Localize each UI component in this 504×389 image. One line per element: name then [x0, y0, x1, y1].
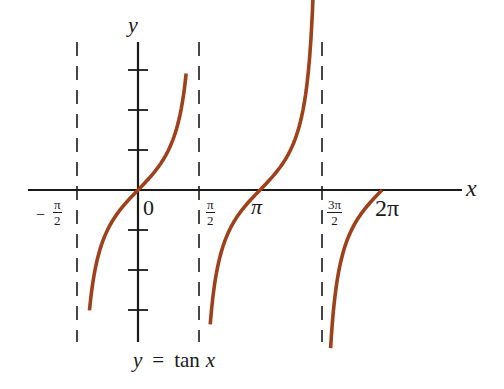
x-axis-label: x — [466, 176, 477, 200]
tick-label-half-pi: π2 — [206, 198, 215, 227]
tick-label-three-half-pi: 3π2 — [327, 198, 342, 227]
asymptotes — [77, 42, 322, 342]
neg-sign: − — [36, 206, 45, 224]
curves — [89, 0, 382, 348]
tan-branch-2 — [210, 0, 316, 324]
tick-label-pi: π — [251, 196, 262, 218]
chart-caption: y = tan x — [133, 350, 215, 371]
axes — [28, 42, 462, 342]
tick-label-neg-half-pi: π2 — [53, 198, 62, 227]
y-axis-label: y — [128, 14, 138, 36]
tick-label-origin: 0 — [143, 197, 154, 219]
tick-label-two-pi: 2π — [375, 196, 399, 220]
